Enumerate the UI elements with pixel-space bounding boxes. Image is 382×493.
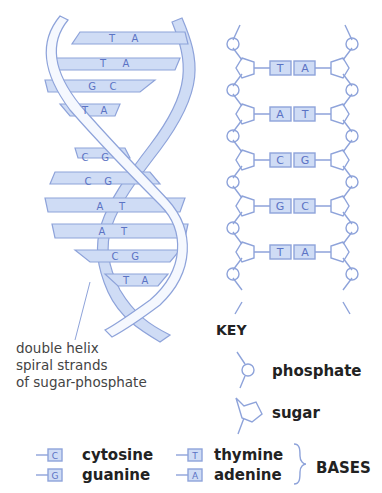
ladder-letters: TA AT CG GC TA [276,62,310,259]
key-sugar: sugar [272,404,320,422]
helix-caption: double helix spiral strands of sugar-pho… [16,340,147,391]
svg-text:G: G [131,251,139,262]
svg-text:T: T [120,226,128,237]
svg-text:T: T [276,62,284,75]
svg-text:A: A [132,33,139,44]
ladder-diagram [227,25,358,314]
key-thymine: thymine [214,446,283,464]
svg-text:A: A [301,62,309,75]
svg-text:A: A [101,105,108,116]
svg-text:C: C [52,451,58,461]
svg-text:C: C [82,152,89,163]
svg-text:A: A [301,246,309,259]
svg-text:A: A [99,226,106,237]
svg-text:A: A [276,108,284,121]
svg-text:G: G [88,81,96,92]
ladder-sugars [236,58,349,262]
bases-brace [294,444,306,484]
svg-text:C: C [110,81,117,92]
key-phosphate: phosphate [272,362,362,380]
svg-text:A: A [97,201,104,212]
svg-text:G: G [52,471,59,481]
phosphate-icon [237,352,245,388]
key-guanine: guanine [82,466,150,484]
caption-pointer [75,282,90,340]
caption-line: double helix [16,340,147,357]
caption-line: spiral strands [16,357,147,374]
bases-label: BASES [316,459,371,477]
svg-text:T: T [81,105,89,116]
double-helix [45,16,195,342]
svg-text:C: C [301,200,309,213]
svg-text:G: G [101,152,109,163]
key-cytosine: cytosine [82,446,153,464]
svg-text:T: T [108,33,116,44]
caption-line: of sugar-phosphate [16,374,147,391]
svg-text:A: A [123,58,130,69]
svg-text:C: C [112,251,119,262]
svg-text:T: T [301,108,309,121]
svg-text:G: G [301,154,310,167]
svg-text:A: A [192,471,199,481]
dna-diagram: TA TA GC TA CG CG AT AT CG TA [0,0,382,493]
svg-text:C: C [276,154,284,167]
key-title: KEY [216,322,247,338]
svg-text:T: T [276,246,284,259]
svg-text:G: G [104,176,112,187]
svg-text:T: T [99,58,107,69]
key-adenine: adenine [214,466,282,484]
svg-text:T: T [122,275,130,286]
svg-text:T: T [118,201,126,212]
sugar-icon [236,398,262,434]
svg-text:G: G [276,200,285,213]
svg-text:A: A [142,275,149,286]
svg-text:T: T [191,451,198,461]
svg-text:C: C [85,176,92,187]
